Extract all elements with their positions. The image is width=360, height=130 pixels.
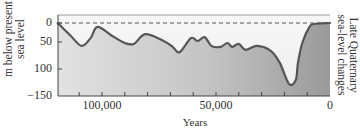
- plot-area: [0, 0, 360, 130]
